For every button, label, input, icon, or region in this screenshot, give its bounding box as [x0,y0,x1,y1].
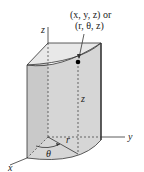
cylindrical-coordinates-diagram: z y x r θ z (x, y, z) or (r, θ, z) [0,0,144,172]
point-marker [76,60,81,65]
x-axis [10,158,27,165]
z-axis-label: z [40,24,45,35]
radius-label: r [66,134,70,145]
x-axis-label: x [7,162,13,172]
point-label-line2: (r, θ, z) [75,20,104,32]
angle-label: θ [46,148,51,159]
height-label: z [80,93,85,104]
y-axis-label: y [127,131,133,142]
